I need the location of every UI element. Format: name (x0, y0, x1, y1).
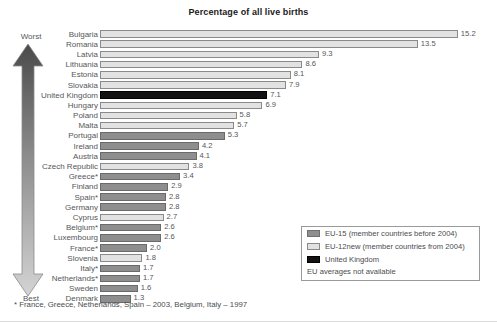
bar-eu12 (100, 40, 418, 48)
chart-title: Percentage of all live births (0, 7, 497, 17)
bar-row: Cyprus2.7 (0, 212, 497, 222)
legend-swatch-eu12new-icon (307, 243, 320, 250)
bar-eu12 (100, 122, 234, 130)
bar-track (100, 51, 472, 59)
legend-label-eu15: EU-15 (member countries before 2004) (325, 229, 457, 238)
country-label: United Kingdom (0, 91, 98, 100)
country-label: Lithuania (0, 60, 98, 69)
bar-value-label: 2.7 (167, 213, 178, 221)
legend-label-eu12new: EU-12new (member countries from 2004) (325, 242, 465, 251)
bar-value-label: 7.1 (270, 91, 281, 99)
country-label: Slovakia (0, 81, 98, 90)
bar-value-label: 6.9 (265, 101, 276, 109)
bar-eu12 (100, 254, 142, 262)
bar-value-label: 2.9 (171, 182, 182, 190)
bar-eu12 (100, 81, 286, 89)
bar-row: Czech Republic3.8 (0, 161, 497, 171)
bar-row: Ireland4.2 (0, 141, 497, 151)
bar-eu15 (100, 183, 168, 191)
bar-track (100, 71, 472, 79)
bar-value-label: 2.8 (169, 203, 180, 211)
bar-value-label: 2.6 (164, 233, 175, 241)
country-label: Slovenia (0, 254, 98, 263)
country-label: Malta (0, 121, 98, 130)
chart-footnote: * France, Greece, Netherlands, Spain – 2… (14, 300, 247, 309)
bar-row: Bulgaria15.2 (0, 29, 497, 39)
bar-value-label: 3.4 (183, 172, 194, 180)
bar-row: Germany2.8 (0, 202, 497, 212)
bar-eu15 (100, 203, 166, 211)
legend-item-eu15: EU-15 (member countries before 2004) (307, 227, 479, 240)
country-label: France* (0, 244, 98, 253)
country-label: Portugal (0, 131, 98, 140)
bar-track (100, 142, 472, 150)
country-label: Latvia (0, 50, 98, 59)
bar-eu12 (100, 30, 458, 38)
bar-row: Estonia8.1 (0, 70, 497, 80)
chart-frame: Percentage of all live births Worst Best… (0, 0, 497, 322)
country-label: Netherlands* (0, 274, 98, 283)
country-label: Belgium* (0, 223, 98, 232)
country-label: Sweden (0, 284, 98, 293)
legend-swatch-eu15-icon (307, 230, 320, 237)
bar-track (100, 203, 472, 211)
bar-eu12 (100, 102, 262, 110)
bar-value-label: 2.0 (150, 244, 161, 252)
bar-row: United Kingdom7.1 (0, 90, 497, 100)
bar-row: Hungary6.9 (0, 100, 497, 110)
bar-track (100, 183, 472, 191)
bar-track (100, 102, 472, 110)
country-label: Luxembourg (0, 233, 98, 242)
country-label: Cyprus (0, 213, 98, 222)
bar-value-label: 2.6 (164, 223, 175, 231)
bar-row: Slovakia7.9 (0, 80, 497, 90)
bar-row: Lithuania8.6 (0, 60, 497, 70)
bar-row: Poland5.8 (0, 111, 497, 121)
bar-track (100, 91, 472, 99)
bar-eu12 (100, 163, 189, 171)
country-label: Italy* (0, 264, 98, 273)
country-label: Spain* (0, 193, 98, 202)
bar-eu15 (100, 132, 225, 140)
bar-eu12 (100, 112, 237, 120)
bar-value-label: 8.1 (294, 70, 305, 78)
bar-value-label: 4.1 (200, 152, 211, 160)
legend-label-uk: United Kingdom (325, 255, 379, 264)
country-label: Germany (0, 203, 98, 212)
bar-row: Latvia9.3 (0, 49, 497, 59)
bar-track (100, 61, 472, 69)
bar-eu12 (100, 51, 319, 59)
country-label: Bulgaria (0, 30, 98, 39)
bar-value-label: 9.3 (322, 50, 333, 58)
bar-row: Greece*3.4 (0, 172, 497, 182)
bar-value-label: 1.8 (145, 254, 156, 262)
bar-row: Romania13.5 (0, 39, 497, 49)
bar-row: Austria4.1 (0, 151, 497, 161)
bar-value-label: 5.3 (228, 131, 239, 139)
bar-eu12 (100, 71, 291, 79)
bar-value-label: 1.6 (141, 284, 152, 292)
bar-eu15 (100, 142, 199, 150)
bar-track (100, 163, 472, 171)
country-label: Poland (0, 111, 98, 120)
bar-eu12 (100, 214, 164, 222)
country-label: Czech Republic (0, 162, 98, 171)
legend-swatch-uk-icon (307, 256, 320, 263)
bar-value-label: 5.7 (237, 121, 248, 129)
bar-eu15 (100, 265, 140, 273)
bar-track (100, 112, 472, 120)
legend-note: EU averages not available (307, 266, 479, 276)
bar-eu15 (100, 285, 138, 293)
bar-value-label: 8.6 (305, 60, 316, 68)
bar-track (100, 173, 472, 181)
country-label: Austria (0, 152, 98, 161)
bar-row: Finland2.9 (0, 182, 497, 192)
bar-value-label: 15.2 (461, 30, 476, 38)
bar-track (100, 30, 472, 38)
bar-track (100, 40, 472, 48)
bar-eu15 (100, 152, 197, 160)
bar-track (100, 193, 472, 201)
bar-value-label: 1.7 (143, 274, 154, 282)
bar-value-label: 2.8 (169, 193, 180, 201)
bar-row: Spain*2.8 (0, 192, 497, 202)
